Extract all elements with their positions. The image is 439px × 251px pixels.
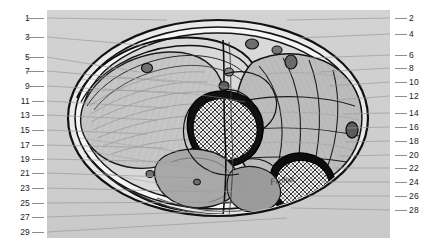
label-number[interactable]: 14 <box>409 109 419 118</box>
leader-line <box>26 71 44 72</box>
leader-line <box>26 37 44 38</box>
label-number[interactable]: 20 <box>409 151 419 160</box>
right-label-column: 2 4 6 8 10 12 14 16 18 20 22 24 26 28 <box>395 0 439 251</box>
label-number[interactable]: 6 <box>409 51 414 60</box>
label-number[interactable]: 10 <box>409 78 419 87</box>
leader-line <box>32 188 44 189</box>
label-number[interactable]: 17 <box>20 141 30 150</box>
label-number[interactable]: 19 <box>20 155 30 164</box>
label-number[interactable]: 13 <box>20 111 30 120</box>
label-number[interactable]: 4 <box>409 30 414 39</box>
leader-line <box>26 86 44 87</box>
leader-line <box>32 203 44 204</box>
cross-section-illustration: Frohse <box>47 10 390 238</box>
label-number[interactable]: 2 <box>409 14 414 23</box>
anatomical-figure: Frohse 1 3 5 7 9 11 13 15 17 19 21 23 25… <box>0 0 439 251</box>
label-number[interactable]: 7 <box>25 67 30 76</box>
label-number[interactable]: 23 <box>20 184 30 193</box>
label-number[interactable]: 24 <box>409 178 419 187</box>
leader-line <box>395 182 407 183</box>
leader-line <box>395 141 407 142</box>
label-number[interactable]: 18 <box>409 137 419 146</box>
label-number[interactable]: 16 <box>409 123 419 132</box>
label-number[interactable]: 21 <box>20 169 30 178</box>
leader-line <box>32 232 44 233</box>
leader-line <box>26 57 44 58</box>
label-number[interactable]: 15 <box>20 126 30 135</box>
leader-line <box>32 145 44 146</box>
label-number[interactable]: 9 <box>25 82 30 91</box>
leader-line <box>395 55 407 56</box>
leader-line <box>395 18 407 19</box>
label-number[interactable]: 12 <box>409 92 419 101</box>
leader-line <box>32 159 44 160</box>
leader-line <box>395 82 407 83</box>
label-number[interactable]: 28 <box>409 206 419 215</box>
label-number[interactable]: 26 <box>409 192 419 201</box>
label-number[interactable]: 5 <box>25 53 30 62</box>
label-number[interactable]: 29 <box>20 228 30 237</box>
left-label-column: 1 3 5 7 9 11 13 15 17 19 21 23 25 27 29 <box>0 0 44 251</box>
leader-line <box>32 217 44 218</box>
label-number[interactable]: 1 <box>25 14 30 23</box>
leader-line <box>395 68 407 69</box>
leader-line <box>395 196 407 197</box>
leader-line <box>395 210 407 211</box>
leader-line <box>32 173 44 174</box>
leader-line <box>395 113 407 114</box>
leader-line <box>32 130 44 131</box>
label-number[interactable]: 22 <box>409 164 419 173</box>
leader-line <box>395 168 407 169</box>
leader-line <box>395 155 407 156</box>
leader-line <box>395 96 407 97</box>
label-number[interactable]: 27 <box>20 213 30 222</box>
leader-line <box>32 115 44 116</box>
leader-line <box>395 34 407 35</box>
label-number[interactable]: 3 <box>25 33 30 42</box>
leader-line <box>26 18 44 19</box>
label-number[interactable]: 25 <box>20 199 30 208</box>
label-number[interactable]: 8 <box>409 64 414 73</box>
label-number[interactable]: 11 <box>21 97 30 106</box>
leader-line <box>395 127 407 128</box>
leader-line <box>32 101 44 102</box>
